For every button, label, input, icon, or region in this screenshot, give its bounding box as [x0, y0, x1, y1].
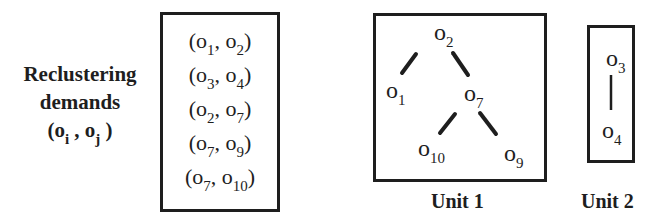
node-o4: o4	[602, 118, 622, 142]
node-o10: o10	[418, 136, 445, 160]
unit-1-box: o2 o1 o7 o10 o9	[373, 13, 547, 182]
demand-pair: (o3, o4)	[163, 63, 277, 87]
unit-1-label: Unit 1	[431, 190, 484, 213]
demand-pair: (o1, o2)	[163, 29, 277, 53]
node-o9: o9	[504, 141, 524, 165]
label-line-2: demands	[0, 88, 160, 116]
demand-pair: (o7, o10)	[163, 165, 277, 189]
label-pair-notation: (oi , oj )	[0, 116, 160, 144]
node-o1: o1	[386, 78, 406, 102]
node-o7: o7	[464, 81, 484, 105]
label-line-1: Reclustering	[0, 60, 160, 88]
reclustering-demands-label: Reclustering demands (oi , oj )	[0, 60, 160, 144]
unit-2-box: o3 o4	[587, 25, 635, 163]
demand-pair: (o2, o7)	[163, 97, 277, 121]
demands-list-box: (o1, o2) (o3, o4) (o2, o7) (o7, o9) (o7,…	[160, 12, 280, 212]
unit-2-label: Unit 2	[581, 190, 634, 213]
demand-pair: (o7, o9)	[163, 131, 277, 155]
node-o3: o3	[606, 46, 626, 70]
node-o2: o2	[434, 20, 454, 44]
